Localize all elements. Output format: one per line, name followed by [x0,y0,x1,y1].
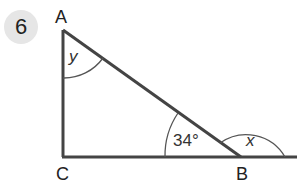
vertex-label-C: C [56,165,69,183]
triangle-diagram [0,0,297,192]
angle-label-x: x [246,132,255,149]
angle-label-34: 34° [173,132,199,149]
vertex-label-A: A [55,8,67,26]
angle-label-y: y [69,48,78,65]
side-AB [63,30,241,157]
vertex-label-B: B [236,165,248,183]
